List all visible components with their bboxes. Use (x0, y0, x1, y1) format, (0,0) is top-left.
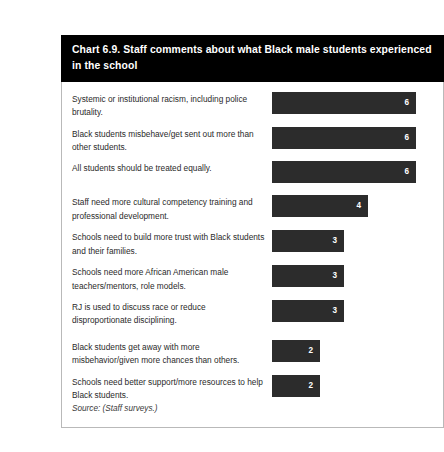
chart-figure: Chart 6.9. Staff comments about what Bla… (61, 35, 444, 428)
chart-row: Systemic or institutional racism, includ… (72, 92, 433, 120)
bar-category-label: Black students get away with more misbeh… (72, 340, 272, 368)
bar-value-label: 2 (308, 382, 313, 390)
bar: 6 (272, 127, 416, 149)
bar-value-label: 3 (332, 307, 337, 315)
bar-category-label: Systemic or institutional racism, includ… (72, 92, 272, 120)
bar-category-label: Staff need more cultural competency trai… (72, 195, 272, 223)
bar: 4 (272, 195, 368, 217)
bar-value-label: 3 (332, 272, 337, 280)
page-title: Chart 6.9. Staff comments about what Bla… (72, 42, 433, 74)
bar-track: 3 (272, 300, 433, 322)
bar-category-label: All students should be treated equally. (72, 161, 272, 175)
bar: 6 (272, 161, 416, 183)
bar-value-label: 6 (404, 99, 409, 107)
bar: 2 (272, 340, 320, 362)
bar-track: 3 (272, 230, 433, 252)
chart-row: Staff need more cultural competency trai… (72, 195, 433, 223)
bar-track: 2 (272, 375, 433, 397)
chart-row: Schools need to build more trust with Bl… (72, 230, 433, 258)
bar-category-label: Schools need more African American male … (72, 265, 272, 293)
bar-value-label: 6 (404, 168, 409, 176)
chart-row: Schools need more African American male … (72, 265, 433, 293)
source-note: Source: (Staff surveys.) (72, 404, 158, 413)
bar-category-label: Schools need to build more trust with Bl… (72, 230, 272, 258)
bar-rows-container: Systemic or institutional racism, includ… (72, 92, 433, 403)
bar: 3 (272, 230, 344, 252)
bar-value-label: 4 (356, 202, 361, 210)
bar-track: 6 (272, 92, 433, 114)
bar-category-label: RJ is used to discuss race or reduce dis… (72, 300, 272, 328)
bar-category-label: Schools need better support/more resourc… (72, 375, 272, 403)
chart-row: All students should be treated equally.6 (72, 161, 433, 183)
chart-row: Black students misbehave/get sent out mo… (72, 127, 433, 155)
chart-row: RJ is used to discuss race or reduce dis… (72, 300, 433, 328)
bar-track: 4 (272, 195, 433, 217)
bar-track: 6 (272, 161, 433, 183)
bar-track: 3 (272, 265, 433, 287)
bar-value-label: 3 (332, 237, 337, 245)
bar-value-label: 2 (308, 347, 313, 355)
bar-value-label: 6 (404, 133, 409, 141)
bar-category-label: Black students misbehave/get sent out mo… (72, 127, 272, 155)
bar: 2 (272, 375, 320, 397)
bar: 3 (272, 265, 344, 287)
bar: 3 (272, 300, 344, 322)
chart-title-banner: Chart 6.9. Staff comments about what Bla… (61, 35, 444, 82)
bar-track: 2 (272, 340, 433, 362)
bar-track: 6 (272, 127, 433, 149)
bar: 6 (272, 92, 416, 114)
chart-row: Black students get away with more misbeh… (72, 340, 433, 368)
chart-plot-area: Systemic or institutional racism, includ… (61, 82, 444, 428)
chart-row: Schools need better support/more resourc… (72, 375, 433, 403)
